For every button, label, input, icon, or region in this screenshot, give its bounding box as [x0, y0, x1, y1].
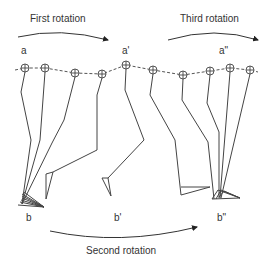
third-rotation-label: Third rotation [180, 13, 239, 24]
leg-8 [207, 75, 219, 198]
point-a-double-prime-label: a" [219, 45, 228, 56]
point-b-prime-label: b' [114, 212, 121, 223]
hip-trajectory [15, 65, 258, 75]
leg-3 [22, 77, 75, 204]
second-rotation-label: Second rotation [86, 245, 156, 256]
gait-diagram-canvas [0, 0, 276, 261]
leg-1 [21, 72, 31, 204]
point-b-double-prime-label: b" [217, 212, 226, 223]
first-rotation-label: First rotation [30, 13, 86, 24]
leg-2 [22, 72, 45, 204]
point-a-prime-label: a' [122, 45, 129, 56]
hip-marker-icon [71, 69, 79, 77]
leg-7 [182, 79, 214, 199]
leg-6 [150, 74, 210, 195]
hip-marker-icon [41, 64, 49, 72]
gait-diagram: First rotation Third rotation Second rot… [0, 0, 276, 261]
hip-marker-icon [21, 64, 29, 72]
hip-marker-icon [246, 66, 254, 74]
hip-marker-icon [122, 61, 130, 69]
hip-marker-icon [226, 64, 234, 72]
third-rotation-arrow [168, 33, 258, 40]
point-b-label: b [26, 212, 32, 223]
legs [18, 69, 250, 207]
hip-marker-icon [179, 71, 187, 79]
second-rotation-arrow [50, 227, 197, 238]
hip-marker-icon [206, 67, 214, 75]
leg-5 [102, 69, 144, 196]
hip-marker-icon [98, 70, 106, 78]
first-rotation-arrow [18, 33, 108, 40]
point-a-label: a [21, 45, 27, 56]
hip-marker-icon [149, 66, 157, 74]
